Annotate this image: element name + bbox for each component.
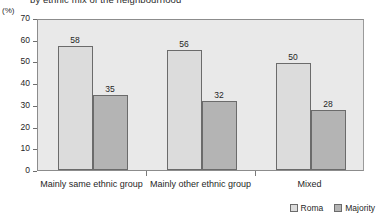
- y-axis-tick-label: 20: [21, 122, 30, 132]
- y-axis-tick-label: 0: [25, 165, 30, 175]
- x-axis-category-label: Mainly same ethnic group: [40, 179, 143, 189]
- bar-value-label: 58: [70, 35, 79, 45]
- y-axis-tick-label: 50: [21, 56, 30, 66]
- y-axis-tick-label: 70: [21, 13, 30, 23]
- chart-legend: RomaMajority: [290, 203, 375, 213]
- legend-swatch-icon: [334, 204, 342, 212]
- bar-roma-0: 58: [58, 46, 93, 170]
- bar-value-label: 56: [179, 39, 188, 49]
- bar-majority-0: 35: [93, 95, 128, 170]
- y-axis-tick-label: 30: [21, 100, 30, 110]
- bar-value-label: 32: [214, 90, 223, 100]
- x-axis-category-label: Mixed: [297, 179, 321, 189]
- y-axis-tick-label: 10: [21, 143, 30, 153]
- bar-value-label: 50: [288, 52, 297, 62]
- legend-label: Roma: [301, 203, 324, 213]
- bar-majority-1: 32: [202, 101, 237, 170]
- bar-roma-2: 50: [276, 63, 311, 170]
- legend-label: Majority: [345, 203, 375, 213]
- x-axis-category-label: Mainly other ethnic group: [150, 179, 251, 189]
- y-axis-tick-label: 60: [21, 35, 30, 45]
- bar-roma-1: 56: [167, 50, 202, 170]
- x-axis-tick-mark: [255, 171, 256, 176]
- y-axis-tick-label: 40: [21, 78, 30, 88]
- x-axis-tick-mark: [146, 171, 147, 176]
- chart-title: by ethnic mix of the neighbourhood: [30, 0, 181, 5]
- bar-value-label: 28: [323, 99, 332, 109]
- legend-swatch-icon: [290, 204, 298, 212]
- bar-value-label: 35: [105, 84, 114, 94]
- y-axis-tick-mark: [33, 171, 37, 172]
- legend-item-roma[interactable]: Roma: [290, 203, 324, 213]
- y-axis-unit-label: (%): [2, 6, 14, 15]
- legend-item-majority[interactable]: Majority: [334, 203, 375, 213]
- plot-area: 583556325028: [37, 19, 364, 171]
- bar-majority-2: 28: [311, 110, 346, 170]
